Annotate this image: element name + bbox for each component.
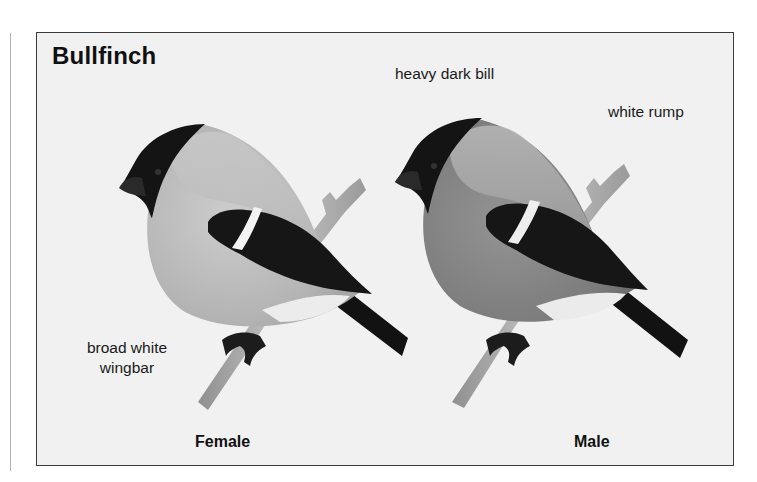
label-female: Female xyxy=(195,433,250,451)
male-bill xyxy=(395,171,422,190)
annotation-wingbar-line1: broad white xyxy=(72,338,182,358)
annotation-white-rump: white rump xyxy=(608,102,684,122)
female-bill xyxy=(119,177,146,196)
annotation-broad-white-wingbar: broad white wingbar xyxy=(72,338,182,378)
bullfinch-illustration xyxy=(0,0,757,482)
plate-title: Bullfinch xyxy=(52,42,156,70)
male-bird xyxy=(395,118,688,408)
annotation-heavy-dark-bill: heavy dark bill xyxy=(395,64,494,84)
label-male: Male xyxy=(574,433,610,451)
annotation-wingbar-line2: wingbar xyxy=(72,358,182,378)
